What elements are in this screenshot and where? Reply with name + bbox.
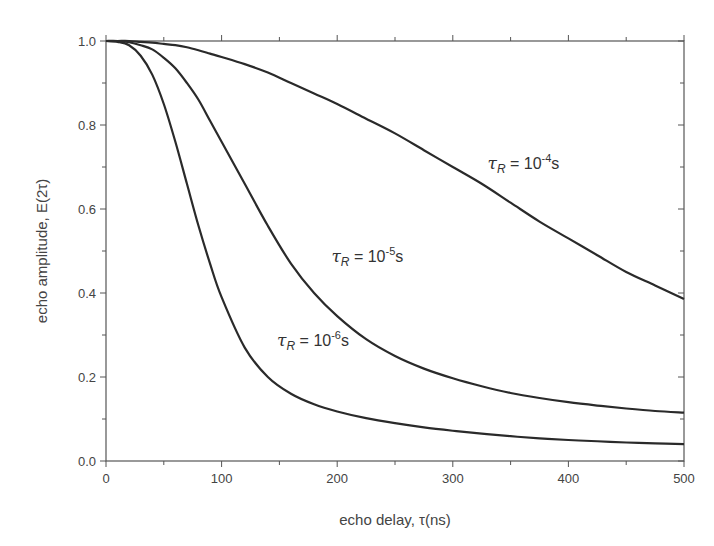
y-tick-label: 0.4 [78,286,96,301]
curve-series-1 [106,41,684,444]
y-axis-title: echo amplitude, E(2τ) [33,179,50,323]
curves [106,41,684,444]
y-tick-label: 0.2 [78,370,96,385]
y-tick-label: 1.0 [78,34,96,49]
y-tick-label: 0.8 [78,118,96,133]
x-tick-label: 0 [102,471,109,486]
x-tick-label: 500 [673,471,695,486]
chart: 0100200300400500 0.00.20.40.60.81.0 τR =… [0,0,714,546]
curve-series-2 [106,41,684,413]
curve-annotations: τR = 10-4sτR = 10-5sτR = 10-6s [277,152,559,352]
x-tick-label: 300 [442,471,464,486]
x-tick-label: 400 [558,471,580,486]
curve-label: τR = 10-6s [277,329,349,353]
y-tick-label: 0.0 [78,454,96,469]
x-tick-label: 100 [211,471,233,486]
curve-label: τR = 10-4s [487,152,559,176]
curve-label: τR = 10-5s [331,245,403,269]
x-axis-title: echo delay, τ(ns) [339,511,451,528]
y-tick-label: 0.6 [78,202,96,217]
x-tick-label: 200 [326,471,348,486]
